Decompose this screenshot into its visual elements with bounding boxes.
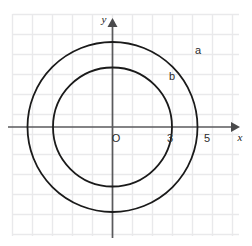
figure-background	[0, 0, 252, 246]
x-axis-label: x	[237, 131, 243, 143]
y-axis-label: y	[101, 13, 107, 25]
circles-graph-figure: y x O 3 5 a b	[0, 0, 252, 246]
curve-label-a: a	[195, 44, 202, 56]
origin-label: O	[112, 132, 121, 144]
x-tick-label-5: 5	[204, 132, 210, 144]
coordinate-plane: y x O 3 5 a b	[0, 0, 252, 246]
curve-label-b: b	[169, 70, 175, 82]
x-tick-label-3: 3	[167, 132, 173, 144]
